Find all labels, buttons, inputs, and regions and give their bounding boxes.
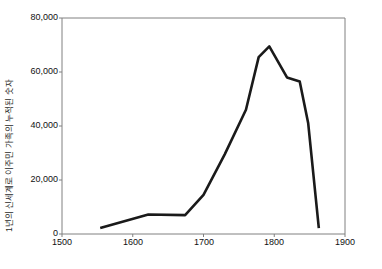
plot-area	[0, 0, 382, 269]
chart-container: 1년의 신세계로 이주민 가족의 누적된 숫자 80,000 60,000 40…	[0, 0, 382, 269]
data-series-line	[100, 46, 319, 228]
axis-lines	[62, 18, 345, 234]
